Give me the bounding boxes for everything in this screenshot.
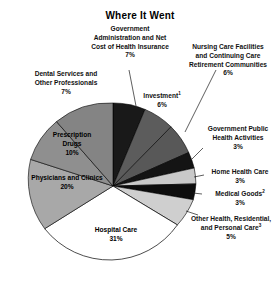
label-physicians-line1: Physicians and Clinics xyxy=(31,174,102,181)
pie-chart-figure: Where It Went Government Administra xyxy=(0,0,280,283)
label-government-administration-line3: Cost of Health Insurance xyxy=(91,43,169,50)
label-dental-services-percent: 7% xyxy=(20,88,112,97)
label-hospital-care-line1: Hospital Care xyxy=(95,226,138,233)
label-dental-services-line2: Other Professionals xyxy=(35,79,98,86)
label-hospital-care-percent: 31% xyxy=(78,235,154,244)
label-prescription-drugs: Prescription Drugs 10% xyxy=(42,131,102,157)
label-other-health-footnote-marker: 3 xyxy=(259,223,262,228)
label-government-public-health-percent: 3% xyxy=(199,143,277,152)
label-nursing-care-line3: Retirement Communities xyxy=(189,61,267,68)
label-other-health-line2: and Personal Care xyxy=(201,224,259,231)
label-nursing-care-line2: and Continuing Care xyxy=(196,52,261,59)
label-prescription-drugs-line2: Drugs xyxy=(62,140,81,147)
label-other-health-line1: Other Health, Residential, xyxy=(191,215,271,222)
label-dental-services-line1: Dental Services and xyxy=(35,70,98,77)
label-government-administration-percent: 7% xyxy=(68,51,192,60)
label-home-health-care-line1: Home Health Care xyxy=(212,168,269,175)
label-government-public-health-line1: Government Public xyxy=(208,125,268,132)
label-investment-percent: 6% xyxy=(131,101,193,110)
label-medical-goods-percent: 3% xyxy=(203,199,277,208)
label-physicians-percent: 20% xyxy=(26,183,108,192)
label-prescription-drugs-percent: 10% xyxy=(42,149,102,158)
label-government-public-health-line2: Health Activities xyxy=(212,134,263,141)
label-investment-footnote-marker: 1 xyxy=(178,91,181,96)
label-prescription-drugs-line1: Prescription xyxy=(53,131,91,138)
label-hospital-care: Hospital Care 31% xyxy=(78,226,154,244)
label-nursing-care-facilities: Nursing Care Facilities and Continuing C… xyxy=(178,43,278,78)
label-medical-goods-line1: Medical Goods xyxy=(215,190,262,197)
label-home-health-care-percent: 3% xyxy=(203,177,277,186)
label-government-administration-line1: Government xyxy=(111,25,150,32)
label-investment: Investment1 6% xyxy=(131,92,193,110)
label-government-administration: Government Administration and Net Cost o… xyxy=(68,25,192,60)
label-other-health-residential: Other Health, Residential, and Personal … xyxy=(184,215,278,241)
label-investment-line1: Investment xyxy=(143,92,178,99)
label-home-health-care: Home Health Care 3% xyxy=(203,168,277,186)
label-other-health-percent: 5% xyxy=(184,233,278,242)
label-physicians-and-clinics: Physicians and Clinics 20% xyxy=(26,174,108,192)
label-medical-goods: Medical Goods2 3% xyxy=(203,190,277,208)
label-dental-services: Dental Services and Other Professionals … xyxy=(20,70,112,96)
label-government-administration-line2: Administration and Net xyxy=(94,34,167,41)
label-nursing-care-percent: 6% xyxy=(178,69,278,78)
label-government-public-health: Government Public Health Activities 3% xyxy=(199,125,277,151)
label-nursing-care-line1: Nursing Care Facilities xyxy=(192,43,263,50)
label-medical-goods-footnote-marker: 2 xyxy=(262,189,265,194)
